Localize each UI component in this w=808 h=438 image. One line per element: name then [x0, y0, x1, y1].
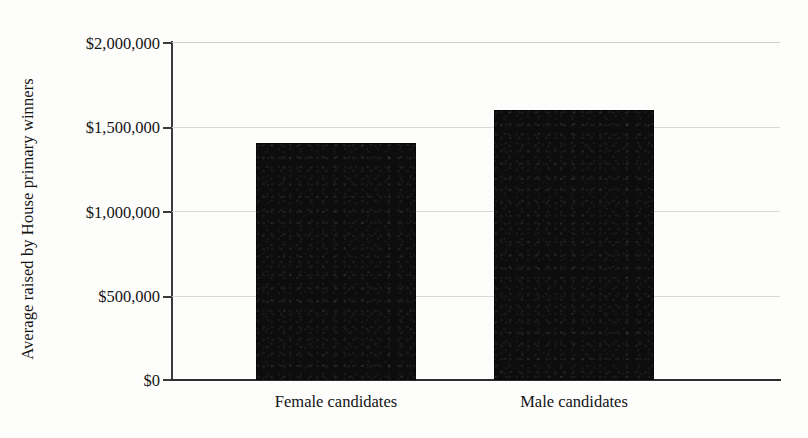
y-axis-tick-labels: $2,000,000 $1,500,000 $1,000,000 $500,00…	[0, 0, 160, 438]
bar-male-candidates	[494, 110, 654, 380]
y-tick-label: $500,000	[0, 287, 160, 307]
bar-female-candidates	[256, 143, 416, 380]
y-tick-label: $1,500,000	[0, 118, 160, 138]
gridline	[172, 127, 780, 128]
x-tick-label-male-candidates: Male candidates	[424, 392, 724, 412]
gridline	[172, 42, 780, 43]
y-tick-label: $2,000,000	[0, 34, 160, 54]
plot-area	[172, 42, 780, 380]
y-tick-label: $0	[0, 371, 160, 391]
bar-chart: Average raised by House primary winners …	[0, 0, 808, 438]
y-tick-label: $1,000,000	[0, 203, 160, 223]
